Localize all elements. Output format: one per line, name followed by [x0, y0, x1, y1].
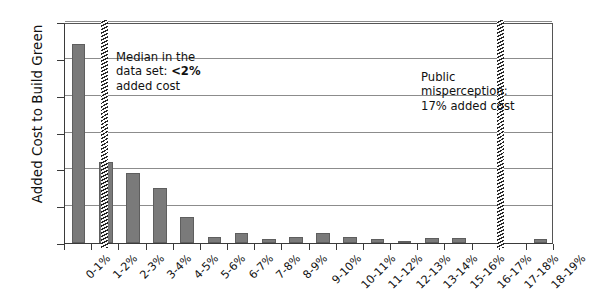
gridline: [65, 21, 552, 22]
median-annotation: Median in the data set: <2% added cost: [116, 50, 201, 93]
x-axis-tick-mark: [336, 244, 337, 250]
x-axis-tick-mark: [254, 244, 255, 250]
misperception-annotation-line3: 17% added cost: [421, 99, 515, 113]
bar: [398, 241, 412, 243]
median-annotation-line2-prefix: data set:: [116, 64, 171, 78]
x-axis-tick-label: 3-4%: [165, 252, 195, 282]
y-axis-tick-mark: [57, 23, 64, 24]
misperception-annotation-line1: Public: [421, 70, 515, 84]
x-axis-tick-mark: [146, 244, 147, 250]
y-axis-tick-mark: [57, 134, 64, 135]
bar: [425, 238, 439, 243]
bar: [534, 239, 548, 243]
x-axis-tick-label: 1-2%: [110, 252, 140, 282]
x-axis-tick-mark: [200, 244, 201, 250]
x-axis-tick-label: 6-7%: [246, 252, 276, 282]
x-axis-tick-mark: [118, 244, 119, 250]
x-axis-tick-mark: [173, 244, 174, 250]
x-axis-tick-mark: [363, 244, 364, 250]
x-axis-tick-mark: [64, 244, 65, 250]
x-axis-tick-mark: [444, 244, 445, 250]
bar: [126, 173, 140, 243]
x-axis-tick-mark: [472, 244, 473, 250]
x-axis-tick-mark: [526, 244, 527, 250]
x-axis-tick-mark: [553, 244, 554, 250]
y-axis-tick-mark: [57, 97, 64, 98]
y-axis-tick-mark: [57, 170, 64, 171]
y-axis-title: Added Cost to Build Green: [29, 0, 45, 229]
gridline: [65, 132, 552, 133]
y-axis-tick-mark: [57, 207, 64, 208]
misperception-annotation: Public misperception: 17% added cost: [421, 70, 515, 113]
bar: [316, 233, 330, 243]
bar: [153, 188, 167, 243]
bar: [235, 233, 249, 243]
x-axis-tick-label: 5-6%: [219, 252, 249, 282]
x-axis-tick-label: 0-1%: [83, 252, 113, 282]
misperception-annotation-line2: misperception:: [421, 84, 515, 98]
x-axis-tick-label: 4-5%: [192, 252, 222, 282]
misperception-marker-line: [497, 20, 504, 248]
bar: [208, 237, 222, 243]
bar: [452, 238, 466, 243]
bar: [343, 237, 357, 243]
bar: [180, 217, 194, 243]
bar: [289, 237, 303, 243]
x-axis-tick-mark: [309, 244, 310, 250]
x-axis-tick-mark: [281, 244, 282, 250]
bar: [262, 239, 276, 243]
y-axis-tick-mark: [57, 60, 64, 61]
median-annotation-line3: added cost: [116, 79, 201, 93]
bar: [72, 44, 86, 243]
median-annotation-line1: Median in the: [116, 50, 201, 64]
median-annotation-value: <2%: [171, 64, 200, 78]
bar: [371, 239, 385, 243]
median-marker-line: [101, 20, 108, 248]
x-axis-tick-mark: [227, 244, 228, 250]
y-axis-tick-mark: [57, 244, 64, 245]
median-annotation-line2: data set: <2%: [116, 64, 201, 78]
x-axis-tick-mark: [417, 244, 418, 250]
x-axis-tick-mark: [390, 244, 391, 250]
x-axis-tick-mark: [91, 244, 92, 250]
x-axis-tick-label: 7-8%: [273, 252, 303, 282]
x-axis-tick-label: 2-3%: [137, 252, 167, 282]
x-axis-tick-label: 8-9%: [300, 252, 330, 282]
gridline: [65, 168, 552, 169]
